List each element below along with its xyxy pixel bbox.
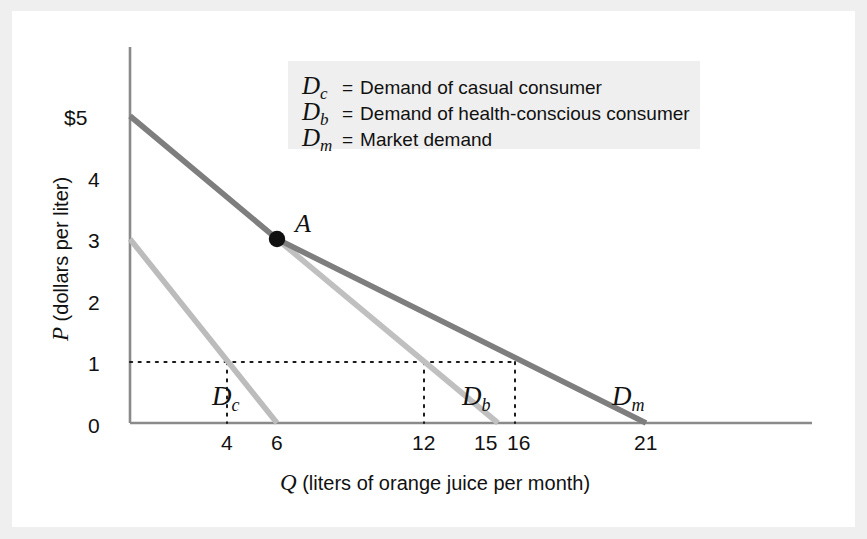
- legend-row-dm: Dm = Market demand: [302, 124, 700, 150]
- legend-symbol-db-letter: D: [302, 98, 320, 125]
- y-tick-label-4: 4: [88, 168, 100, 192]
- curve-label-dm: Dm: [612, 381, 645, 416]
- curve-label-dc: Dc: [212, 381, 240, 416]
- curve-dm: [130, 116, 646, 423]
- legend-symbol-dm-letter: D: [302, 124, 320, 151]
- y-tick-label-3: 3: [88, 229, 100, 253]
- point-a-label: A: [295, 209, 311, 239]
- curve-label-dc-subscript: c: [232, 395, 240, 415]
- figure-panel: $5 4 3 2 1 0 4 6 12 15 16 21 P (dollars …: [12, 11, 855, 527]
- point-a-marker: [269, 231, 285, 247]
- curve-label-db: Db: [462, 381, 491, 416]
- curve-label-db-symbol: D: [462, 381, 482, 411]
- legend-equals-db: =: [342, 103, 353, 125]
- x-tick-label-4: 4: [221, 431, 233, 455]
- curve-dc: [130, 239, 277, 423]
- legend-equals-dc: =: [342, 77, 353, 99]
- x-axis-title-units: (liters of orange juice per month): [297, 472, 590, 494]
- legend-row-dc: Dc = Demand of casual consumer: [302, 72, 700, 98]
- curve-label-dm-subscript: m: [632, 395, 645, 415]
- figure-root: $5 4 3 2 1 0 4 6 12 15 16 21 P (dollars …: [0, 0, 867, 539]
- x-tick-label-21: 21: [634, 431, 657, 455]
- legend-box: Dc = Demand of casual consumer Db = Dema…: [288, 61, 700, 149]
- y-axis-title: P (dollars per liter): [48, 177, 74, 341]
- legend-text-dc: Demand of casual consumer: [360, 77, 602, 99]
- y-tick-label-1: 1: [88, 352, 100, 376]
- legend-symbol-dm: Dm: [302, 124, 342, 156]
- y-axis-title-units: (dollars per liter): [50, 177, 72, 327]
- y-tick-label-0: 0: [88, 414, 100, 438]
- x-tick-label-12: 12: [412, 431, 435, 455]
- x-tick-label-15: 15: [474, 431, 497, 455]
- legend-symbol-dc-letter: D: [302, 72, 320, 99]
- y-tick-label-5: $5: [64, 106, 87, 130]
- y-axis-title-variable: P: [48, 327, 73, 341]
- curve-label-dc-symbol: D: [212, 381, 232, 411]
- legend-text-db: Demand of health-conscious consumer: [360, 103, 690, 125]
- curve-label-dm-symbol: D: [612, 381, 632, 411]
- y-tick-label-2: 2: [88, 291, 100, 315]
- x-axis-title-variable: Q: [280, 470, 297, 495]
- legend-row-db: Db = Demand of health-conscious consumer: [302, 98, 700, 124]
- x-tick-label-6: 6: [271, 431, 283, 455]
- legend-text-dm: Market demand: [360, 129, 492, 151]
- legend-equals-dm: =: [342, 129, 353, 151]
- x-tick-label-16: 16: [507, 431, 530, 455]
- x-axis-title: Q (liters of orange juice per month): [280, 470, 590, 496]
- legend-symbol-dm-subscript: m: [320, 136, 332, 155]
- curve-label-db-subscript: b: [482, 395, 491, 415]
